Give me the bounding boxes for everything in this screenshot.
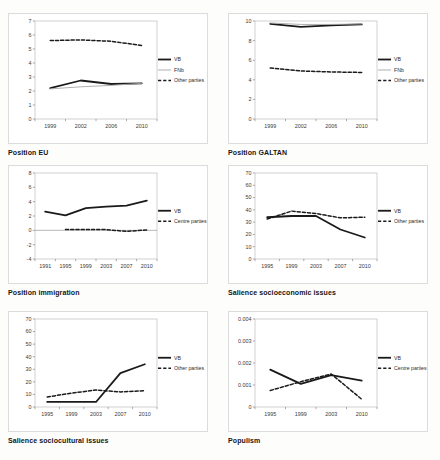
svg-text:1995: 1995 xyxy=(264,411,276,417)
svg-text:2003: 2003 xyxy=(310,263,322,269)
svg-text:VB: VB xyxy=(174,355,181,361)
svg-text:6: 6 xyxy=(28,184,31,190)
svg-text:VB: VB xyxy=(174,208,181,214)
svg-text:1999: 1999 xyxy=(66,411,78,417)
chart-panel-position-galtan: 02468101999200220062010VBFNbOther partie… xyxy=(228,13,428,144)
svg-text:5: 5 xyxy=(28,46,31,52)
svg-text:40: 40 xyxy=(25,354,31,360)
svg-text:50: 50 xyxy=(25,341,31,347)
svg-text:1999: 1999 xyxy=(264,123,276,129)
chart-title-position-immigration: Position immigration xyxy=(8,289,208,296)
svg-text:50: 50 xyxy=(245,194,251,200)
chart-cell-position-eu: 012345671999200220062010VBFNbOther parti… xyxy=(8,13,208,156)
line-chart-position-galtan: 02468101999200220062010VBFNbOther partie… xyxy=(229,14,427,143)
svg-text:20: 20 xyxy=(245,231,251,237)
svg-text:0: 0 xyxy=(28,404,31,410)
svg-text:VB: VB xyxy=(394,56,401,62)
line-chart-populism: 00.0010.0020.0030.0041995199920032010VBC… xyxy=(229,312,427,431)
svg-text:2010: 2010 xyxy=(139,411,151,417)
svg-text:6: 6 xyxy=(28,32,31,38)
chart-title-position-eu: Position EU xyxy=(8,149,208,156)
chart-panel-position-immigration: -4-202468199119951999200320072010VBCentr… xyxy=(8,165,208,284)
svg-text:Centre parties: Centre parties xyxy=(394,365,427,371)
line-chart-position-immigration: -4-202468199119951999200320072010VBCentr… xyxy=(9,166,207,283)
svg-text:8: 8 xyxy=(28,170,31,176)
chart-title-salience-socioeconomic: Salience socioeconomic issues xyxy=(228,289,428,296)
svg-text:30: 30 xyxy=(245,219,251,225)
svg-text:0: 0 xyxy=(248,256,251,262)
svg-text:2: 2 xyxy=(248,96,251,102)
svg-text:0: 0 xyxy=(28,116,31,122)
svg-text:-4: -4 xyxy=(27,256,32,262)
chart-cell-position-galtan: 02468101999200220062010VBFNbOther partie… xyxy=(228,13,428,156)
chart-title-populism: Populism xyxy=(228,437,428,444)
svg-text:4: 4 xyxy=(28,199,31,205)
chart-panel-salience-sociocultural: 01020304050607019951999200320072010VBOth… xyxy=(8,311,208,432)
svg-text:4: 4 xyxy=(28,60,31,66)
svg-text:1: 1 xyxy=(28,102,31,108)
svg-text:FNb: FNb xyxy=(174,67,184,73)
svg-text:FNb: FNb xyxy=(394,67,404,73)
svg-text:2010: 2010 xyxy=(141,263,153,269)
svg-text:Other parties: Other parties xyxy=(394,218,424,224)
svg-text:Other parties: Other parties xyxy=(394,77,424,83)
chart-cell-position-immigration: -4-202468199119951999200320072010VBCentr… xyxy=(8,165,208,296)
svg-text:10: 10 xyxy=(25,391,31,397)
svg-text:2010: 2010 xyxy=(356,123,368,129)
svg-text:70: 70 xyxy=(245,170,251,176)
chart-cell-populism: 00.0010.0020.0030.0041995199920032010VBC… xyxy=(228,311,428,444)
svg-text:2010: 2010 xyxy=(359,263,371,269)
svg-text:0.003: 0.003 xyxy=(238,338,252,344)
chart-title-position-galtan: Position GALTAN xyxy=(228,149,428,156)
line-chart-salience-sociocultural: 01020304050607019951999200320072010VBOth… xyxy=(9,312,207,431)
svg-text:1999: 1999 xyxy=(286,263,298,269)
svg-text:2007: 2007 xyxy=(121,263,133,269)
svg-text:1995: 1995 xyxy=(41,411,53,417)
svg-text:20: 20 xyxy=(25,379,31,385)
svg-text:0.001: 0.001 xyxy=(238,382,252,388)
chart-cell-salience-socioeconomic: 01020304050607019951999200320072010VBOth… xyxy=(228,165,428,296)
svg-text:1999: 1999 xyxy=(80,263,92,269)
line-chart-salience-socioeconomic: 01020304050607019951999200320072010VBOth… xyxy=(229,166,427,283)
svg-text:Other parties: Other parties xyxy=(174,77,204,83)
svg-text:7: 7 xyxy=(28,18,31,24)
svg-text:2003: 2003 xyxy=(325,411,337,417)
svg-text:70: 70 xyxy=(25,316,31,322)
svg-text:2006: 2006 xyxy=(105,123,117,129)
svg-text:1999: 1999 xyxy=(295,411,307,417)
svg-text:VB: VB xyxy=(174,56,181,62)
svg-text:Other parties: Other parties xyxy=(174,365,204,371)
svg-text:4: 4 xyxy=(248,77,251,83)
svg-text:2: 2 xyxy=(28,213,31,219)
chart-panel-position-eu: 012345671999200220062010VBFNbOther parti… xyxy=(8,13,208,144)
svg-text:2003: 2003 xyxy=(90,411,102,417)
svg-text:0: 0 xyxy=(28,227,31,233)
report-page: 012345671999200220062010VBFNbOther parti… xyxy=(0,0,440,460)
chart-panel-populism: 00.0010.0020.0030.0041995199920032010VBC… xyxy=(228,311,428,432)
svg-text:1995: 1995 xyxy=(60,263,72,269)
svg-text:60: 60 xyxy=(25,328,31,334)
svg-text:Centre parties: Centre parties xyxy=(174,218,207,224)
svg-text:1991: 1991 xyxy=(39,263,51,269)
chart-panel-salience-socioeconomic: 01020304050607019951999200320072010VBOth… xyxy=(228,165,428,284)
chart-title-salience-sociocultural: Salience sociocultural issues xyxy=(8,437,208,444)
svg-text:2002: 2002 xyxy=(295,123,307,129)
chart-cell-salience-sociocultural: 01020304050607019951999200320072010VBOth… xyxy=(8,311,208,444)
svg-text:2010: 2010 xyxy=(356,411,368,417)
svg-text:2007: 2007 xyxy=(114,411,126,417)
svg-text:2: 2 xyxy=(28,88,31,94)
svg-text:1995: 1995 xyxy=(261,263,273,269)
svg-text:40: 40 xyxy=(245,207,251,213)
svg-text:2003: 2003 xyxy=(100,263,112,269)
svg-text:VB: VB xyxy=(394,208,401,214)
svg-text:1999: 1999 xyxy=(44,123,56,129)
svg-text:0.002: 0.002 xyxy=(238,360,252,366)
svg-text:30: 30 xyxy=(25,366,31,372)
svg-text:10: 10 xyxy=(245,244,251,250)
svg-text:2002: 2002 xyxy=(75,123,87,129)
svg-text:6: 6 xyxy=(248,57,251,63)
svg-text:VB: VB xyxy=(394,355,401,361)
svg-text:0.004: 0.004 xyxy=(238,316,252,322)
svg-text:3: 3 xyxy=(28,74,31,80)
svg-text:60: 60 xyxy=(245,182,251,188)
